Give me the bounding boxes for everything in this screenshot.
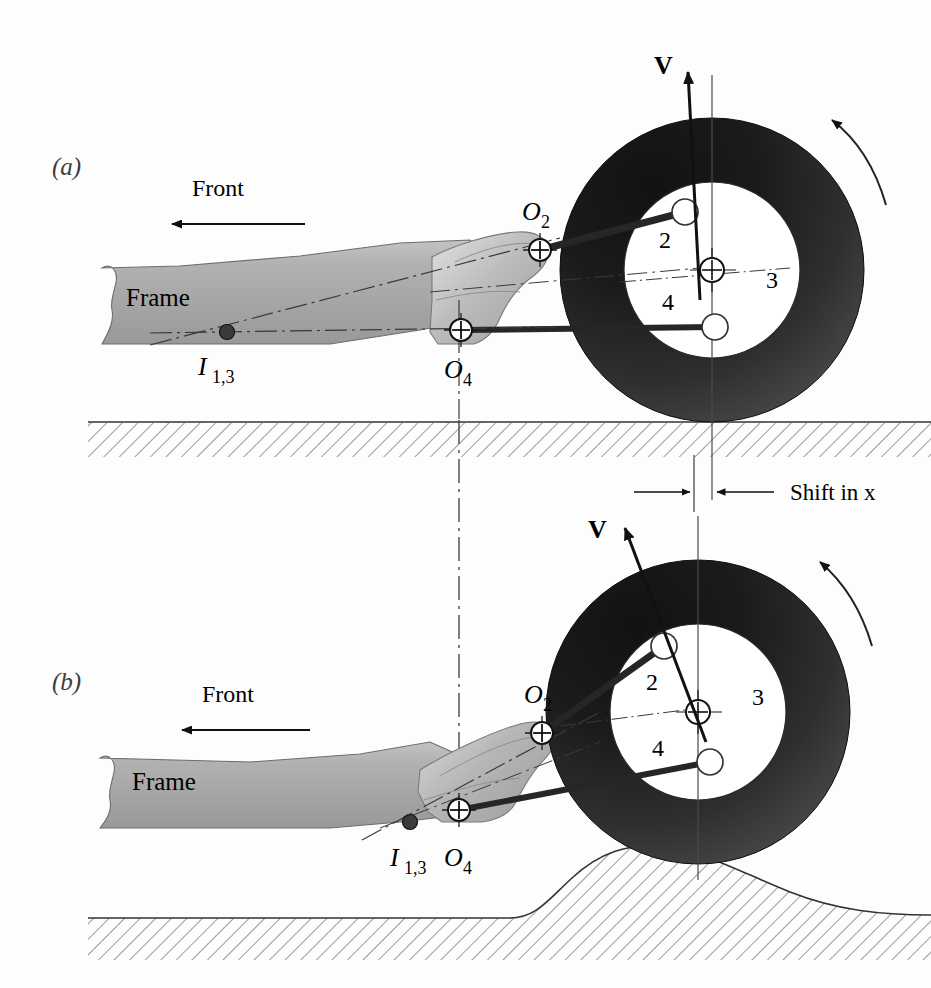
svg-text:I: I bbox=[197, 352, 208, 381]
frame-label-b: Frame bbox=[132, 768, 196, 795]
link-4-a bbox=[461, 327, 715, 330]
pivot-label-o4-b: O 4 bbox=[444, 843, 472, 878]
panel-a: (a) Front Frame I 1,3 O 2 O 4 V 2 3 4 bbox=[52, 51, 931, 500]
instant-center-dot-b bbox=[403, 815, 418, 830]
ball-joint-lower-a bbox=[702, 314, 728, 340]
shift-dimension-label: Shift in x bbox=[790, 480, 876, 505]
svg-text:2: 2 bbox=[543, 695, 552, 715]
svg-text:1,3: 1,3 bbox=[404, 858, 427, 878]
link-number-3-b: 3 bbox=[752, 684, 764, 710]
instant-center-dot-a bbox=[220, 325, 235, 340]
panel-b-label: (b) bbox=[52, 668, 81, 696]
link-number-2-b: 2 bbox=[646, 669, 658, 695]
panel-a-label: (a) bbox=[52, 153, 81, 181]
ground-b bbox=[88, 846, 931, 960]
velocity-label-b: V bbox=[588, 515, 607, 544]
frame-label-a: Frame bbox=[126, 284, 190, 311]
panel-b: (b) Front Frame I 1,3 O 2 O 4 V 2 3 4 bbox=[52, 515, 931, 960]
pivot-label-o2-a: O 2 bbox=[522, 197, 550, 232]
pivot-label-o4-a: O 4 bbox=[444, 355, 472, 390]
svg-text:O: O bbox=[444, 355, 463, 384]
link-number-4-b: 4 bbox=[652, 735, 664, 761]
front-label-a: Front bbox=[192, 175, 244, 201]
svg-text:O: O bbox=[524, 680, 543, 709]
instant-center-label-b: I 1,3 bbox=[389, 843, 427, 878]
svg-text:2: 2 bbox=[541, 212, 550, 232]
pivot-label-o2-b: O 2 bbox=[524, 680, 552, 715]
svg-text:4: 4 bbox=[463, 370, 472, 390]
svg-text:O: O bbox=[444, 843, 463, 872]
figure-canvas: (a) Front Frame I 1,3 O 2 O 4 V 2 3 4 Sh… bbox=[0, 0, 931, 988]
svg-text:4: 4 bbox=[463, 858, 472, 878]
ground-a bbox=[88, 422, 931, 457]
instant-center-label-a: I 1,3 bbox=[197, 352, 235, 387]
velocity-label-a: V bbox=[654, 51, 673, 80]
link-number-3-a: 3 bbox=[766, 267, 778, 293]
front-label-b: Front bbox=[202, 681, 254, 707]
shift-dimension: Shift in x bbox=[634, 455, 876, 512]
ball-joint-lower-b bbox=[697, 749, 723, 775]
svg-text:O: O bbox=[522, 197, 541, 226]
mechanism-diagram: (a) Front Frame I 1,3 O 2 O 4 V 2 3 4 Sh… bbox=[0, 0, 931, 988]
svg-text:I: I bbox=[389, 843, 400, 872]
svg-text:1,3: 1,3 bbox=[212, 367, 235, 387]
link-number-2-a: 2 bbox=[659, 227, 671, 253]
link-number-4-a: 4 bbox=[662, 289, 674, 315]
